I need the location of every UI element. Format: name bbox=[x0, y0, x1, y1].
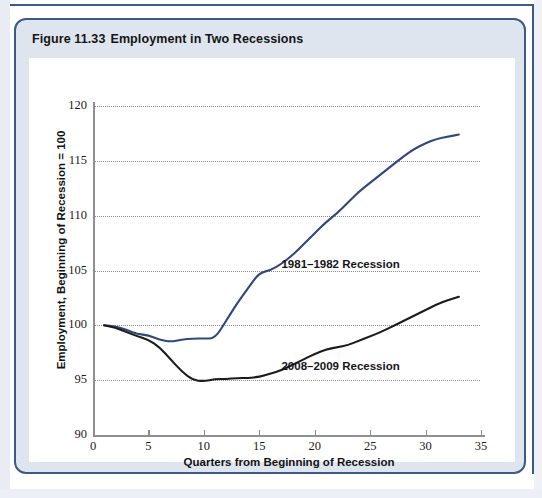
figure-caption: Figure 11.33Employment in Two Recessions bbox=[32, 32, 303, 46]
series-label-1981-1982: 1981–1982 Recession bbox=[281, 258, 399, 270]
page-right-rule bbox=[532, 4, 534, 474]
x-axis-title: Quarters from Beginning of Recession bbox=[93, 456, 485, 468]
plot-area: 9095100105110115120 05101520253035 1981–… bbox=[29, 58, 515, 462]
series-lines bbox=[29, 58, 515, 462]
page-canvas: Figure 11.33Employment in Two Recessions… bbox=[0, 0, 542, 498]
figure-container: Figure 11.33Employment in Two Recessions… bbox=[14, 18, 526, 474]
series-label-2008-2009: 2008–2009 Recession bbox=[281, 360, 399, 372]
page-right-bleed bbox=[534, 0, 542, 498]
line-1981-1982-recession bbox=[104, 135, 459, 342]
page-bottom-bleed bbox=[0, 489, 542, 498]
figure-number: Figure 11.33 bbox=[32, 32, 105, 46]
figure-title-text: Employment in Two Recessions bbox=[110, 32, 303, 46]
chart-panel: 9095100105110115120 05101520253035 1981–… bbox=[29, 58, 515, 462]
page-left-bleed bbox=[0, 0, 10, 498]
page-top-rule bbox=[10, 4, 534, 6]
y-axis-title: Employment, Beginning of Recession = 100 bbox=[55, 100, 67, 400]
